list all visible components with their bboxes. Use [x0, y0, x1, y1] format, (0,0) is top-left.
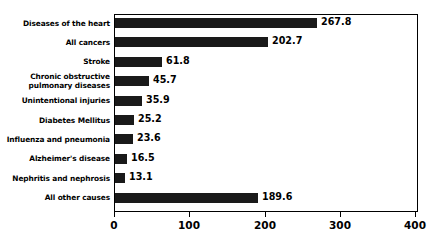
bar-value-label: 13.1: [129, 171, 153, 182]
x-tick-label: 200: [254, 219, 276, 231]
category-label: Chronic obstructive pulmonary diseases: [0, 72, 110, 90]
bar-value-label: 61.8: [166, 55, 190, 66]
bar: [115, 134, 133, 144]
bar-row: Diseases of the heart267.8: [0, 14, 432, 34]
x-tick-label: 400: [404, 219, 426, 231]
category-label: Diseases of the heart: [0, 19, 110, 28]
bar-value-label: 267.8: [321, 16, 351, 27]
x-tick-label: 300: [329, 219, 351, 231]
bar: [115, 37, 268, 47]
x-tick: [340, 212, 341, 217]
bar-row: Chronic obstructive pulmonary diseases45…: [0, 72, 432, 92]
bar-row: Unintentional injuries35.9: [0, 92, 432, 112]
category-label: Nephritis and nephrosis: [0, 174, 110, 183]
bar-row: All other causes189.6: [0, 189, 432, 209]
bar: [115, 57, 162, 67]
bar-value-label: 16.5: [131, 152, 155, 163]
bar-row: Stroke61.8: [0, 53, 432, 73]
bar-row: Influenza and pneumonia23.6: [0, 130, 432, 150]
bar: [115, 96, 142, 106]
bar: [115, 193, 258, 203]
bar-value-label: 202.7: [272, 35, 302, 46]
bar: [115, 76, 149, 86]
bar-value-label: 35.9: [146, 94, 170, 105]
bar: [115, 18, 317, 28]
bar-value-label: 25.2: [138, 113, 162, 124]
bar: [115, 173, 125, 183]
x-tick-label: 0: [110, 219, 117, 231]
x-tick: [415, 212, 416, 217]
category-label: All other causes: [0, 193, 110, 202]
bar-row: All cancers202.7: [0, 33, 432, 53]
x-tick: [114, 212, 115, 217]
x-tick-label: 100: [178, 219, 200, 231]
category-label: Influenza and pneumonia: [0, 135, 110, 144]
category-label: Alzheimer's disease: [0, 154, 110, 163]
bar-chart: Diseases of the heart267.8All cancers202…: [0, 0, 432, 250]
x-tick: [265, 212, 266, 217]
category-label: Unintentional injuries: [0, 96, 110, 105]
bar: [115, 115, 134, 125]
bar: [115, 154, 127, 164]
bar-value-label: 189.6: [262, 191, 292, 202]
category-label: Diabetes Mellitus: [0, 116, 110, 125]
bar-row: Alzheimer's disease16.5: [0, 150, 432, 170]
bar-row: Diabetes Mellitus25.2: [0, 111, 432, 131]
bar-value-label: 23.6: [137, 132, 161, 143]
bar-value-label: 45.7: [153, 74, 177, 85]
category-label: Stroke: [0, 57, 110, 66]
bar-row: Nephritis and nephrosis13.1: [0, 169, 432, 189]
category-label: All cancers: [0, 38, 110, 47]
x-tick: [189, 212, 190, 217]
